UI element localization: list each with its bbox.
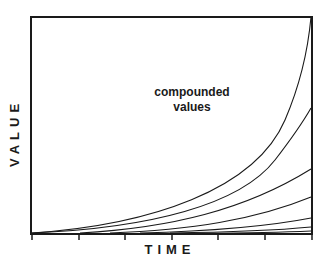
chart-canvas [0, 0, 328, 269]
y-axis-label: VALUE [6, 125, 22, 141]
plot-frame [31, 17, 312, 234]
curves [32, 17, 311, 234]
curve-1 [32, 17, 311, 233]
annotation-line-1: compounded [142, 85, 242, 100]
x-axis-label: TIME [130, 242, 210, 257]
annotation-line-2: values [142, 100, 242, 115]
curve-2 [32, 108, 311, 233]
curve-annotation: compounded values [142, 85, 242, 115]
curve-5 [140, 218, 311, 233]
